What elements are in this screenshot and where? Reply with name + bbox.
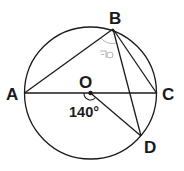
label-point-o: O	[79, 73, 92, 92]
label-point-a: A	[6, 85, 18, 104]
label-point-b: B	[109, 9, 121, 28]
angle-arc-abd	[101, 38, 116, 44]
segment-ab	[25, 29, 114, 93]
label-point-d: D	[144, 138, 156, 157]
angle-variable-marker	[100, 51, 113, 58]
label-angle-aod: 140°	[69, 104, 99, 120]
geometry-diagram: A B C D O 140°	[0, 0, 184, 171]
segment-bd	[113, 29, 141, 136]
segment-bc	[113, 29, 157, 93]
label-point-c: C	[162, 85, 174, 104]
